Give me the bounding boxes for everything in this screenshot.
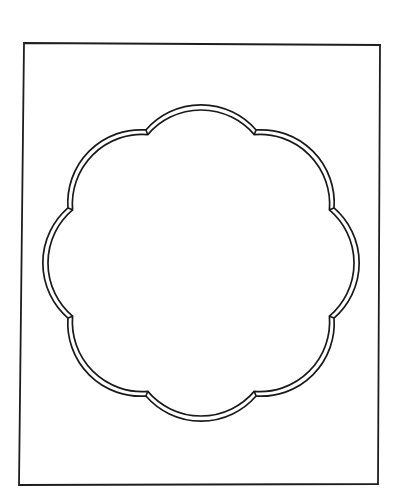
scalloped-border [43, 105, 359, 421]
scallop-inner-line [48, 110, 354, 416]
cusp-notches [68, 130, 334, 396]
scalloped-frame-drawing [0, 0, 394, 499]
scallop-outer-line [43, 105, 359, 421]
